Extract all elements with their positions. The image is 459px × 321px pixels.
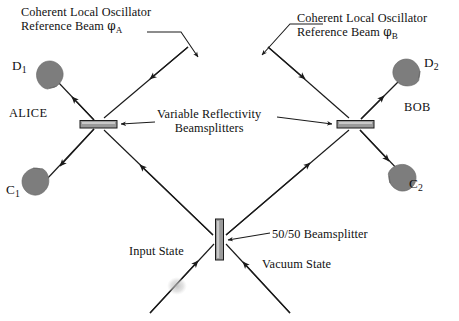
beam-path-group <box>46 47 401 313</box>
beam-bob-to-d2-arrow <box>361 96 384 119</box>
label-bob: BOB <box>404 101 431 115</box>
beam-lo-a-arrow <box>150 47 188 79</box>
label-variable-reflectivity-beamsplitters: Variable ReflectivityBeamsplitters <box>157 108 261 136</box>
variable-reflectivity-beamsplitter-alice-highlight <box>82 122 115 124</box>
beam-bob-to-c2-arrow <box>360 130 389 161</box>
label-detector-c2: C2 <box>409 177 423 194</box>
label-lo-a-line2-prefix: Reference Beam <box>21 19 107 33</box>
beam-bob-from-5050-arrow <box>226 163 310 235</box>
label-lo-b-subscript: B <box>392 30 398 40</box>
label-lo-b-line1: Coherent Local Oscillator <box>297 11 427 25</box>
leader-lo-a <box>147 32 198 57</box>
label-lo-b-line2-prefix: Reference Beam <box>297 25 383 39</box>
beam-alice-to-d1-arrow <box>72 97 94 120</box>
beam-lo-b-arrow <box>268 47 305 79</box>
optics-diagram <box>0 0 459 321</box>
label-detector-c1: C1 <box>6 183 20 200</box>
detector-c1 <box>17 162 55 200</box>
label-c1-base: C <box>6 182 15 197</box>
variable-reflectivity-beamsplitter-bob-highlight <box>339 122 372 124</box>
label-local-oscillator-b: Coherent Local OscillatorReference Beam … <box>297 12 427 41</box>
detector-d1 <box>31 56 68 94</box>
variable-reflectivity-beamsplitter-bob <box>337 121 374 129</box>
label-c2-subscript: 2 <box>418 182 423 193</box>
label-d2-base: D <box>424 55 434 70</box>
label-c2-base: C <box>409 176 418 191</box>
beamsplitter-5050 <box>216 219 224 260</box>
label-local-oscillator-a: Coherent Local OscillatorReference Beam … <box>21 6 151 35</box>
leader-vbs-right <box>277 117 332 124</box>
variable-reflectivity-beamsplitter-alice <box>80 121 117 129</box>
label-lo-a-phi: φ <box>107 19 116 33</box>
label-vacuum-state: Vacuum State <box>262 258 331 272</box>
beamsplitter-5050-highlight <box>217 221 219 258</box>
diagram-canvas: Coherent Local OscillatorReference Beam … <box>0 0 459 321</box>
leader-5050 <box>228 233 270 240</box>
label-detector-d2: D2 <box>424 56 439 73</box>
label-vrb-line2: Beamsplitters <box>175 121 244 135</box>
label-lo-b-phi: φ <box>383 25 392 39</box>
label-input-state: Input State <box>129 245 184 259</box>
beam-alice-to-c1-arrow <box>60 129 94 166</box>
label-vrb-line1: Variable Reflectivity <box>157 107 261 121</box>
label-alice: ALICE <box>9 107 47 121</box>
input-state-mode-blob <box>167 277 187 295</box>
label-lo-a-subscript: A <box>116 24 123 34</box>
label-d2-subscript: 2 <box>434 61 439 72</box>
label-detector-d1: D1 <box>12 59 27 76</box>
leader-vbs-left <box>121 122 155 124</box>
label-d1-base: D <box>12 58 22 73</box>
label-d1-subscript: 1 <box>22 64 27 75</box>
label-5050-beamsplitter: 50/50 Beamsplitter <box>272 228 368 242</box>
label-c1-subscript: 1 <box>15 188 20 199</box>
beam-alice-from-5050-arrow <box>140 165 213 235</box>
label-lo-a-line1: Coherent Local Oscillator <box>21 5 151 19</box>
